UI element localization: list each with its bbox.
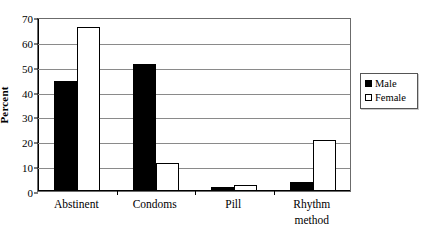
x-tick-mark <box>117 191 118 195</box>
plot-area: 010203040506070 <box>37 18 351 192</box>
bar-female-2 <box>234 185 257 191</box>
y-tick-label: 10 <box>22 163 33 174</box>
y-tick-mark <box>34 118 38 119</box>
legend-item-male: Male <box>365 77 413 90</box>
legend-label-female: Female <box>375 91 406 104</box>
y-tick-mark <box>34 43 38 44</box>
bar-male-2 <box>211 187 234 191</box>
bar-male-0 <box>54 81 77 191</box>
legend-label-male: Male <box>375 77 397 90</box>
y-tick-label: 30 <box>22 113 33 124</box>
bar-chart: Percent 010203040506070 AbstinentCondoms… <box>0 0 422 241</box>
x-axis-category-label: Condoms <box>116 197 195 213</box>
y-tick-mark <box>34 143 38 144</box>
chart-legend: Male Female <box>360 73 418 109</box>
y-tick-label: 40 <box>22 88 33 99</box>
y-tick-mark <box>34 168 38 169</box>
y-tick-label: 60 <box>22 38 33 49</box>
y-tick-mark <box>34 193 38 194</box>
legend-item-female: Female <box>365 91 413 104</box>
x-tick-mark <box>195 191 196 195</box>
bar-female-1 <box>156 163 179 191</box>
bar-female-0 <box>77 27 100 191</box>
bar-female-3 <box>313 140 336 191</box>
y-tick-mark <box>34 93 38 94</box>
bar-male-3 <box>290 182 313 191</box>
y-tick-label: 50 <box>22 63 33 74</box>
x-axis-category-label: Abstinent <box>37 197 116 213</box>
x-axis-category-label: Rhythm method <box>273 197 352 228</box>
y-tick-label: 0 <box>28 188 34 199</box>
bar-male-1 <box>133 64 156 191</box>
x-axis-category-label: Pill <box>194 197 273 213</box>
x-tick-mark <box>274 191 275 195</box>
legend-swatch-male-icon <box>365 80 372 87</box>
y-tick-mark <box>34 68 38 69</box>
legend-swatch-female-icon <box>365 94 372 101</box>
y-tick-label: 70 <box>22 14 33 25</box>
y-tick-mark <box>34 19 38 20</box>
y-tick-label: 20 <box>22 138 33 149</box>
y-axis-title: Percent <box>0 86 10 123</box>
